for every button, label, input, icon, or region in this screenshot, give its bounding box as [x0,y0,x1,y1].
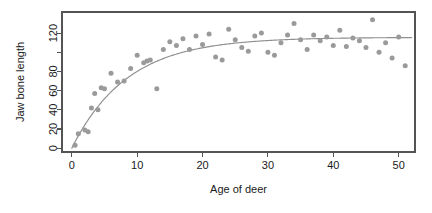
data-point [278,40,283,45]
data-point [377,50,382,55]
data-point [122,79,127,84]
data-point [128,66,133,71]
data-point [390,56,395,61]
data-point [220,57,225,62]
data-point [305,47,310,52]
data-point [89,105,94,110]
data-point [167,39,172,44]
data-point [259,31,264,36]
data-point [135,53,140,58]
plot-frame [62,12,415,152]
data-point [115,80,120,85]
x-tick-label: 10 [131,159,143,171]
data-point [95,107,100,112]
x-tick-label: 40 [327,159,339,171]
data-point [285,33,290,38]
data-point [154,86,159,91]
data-point [396,34,401,39]
data-point [403,63,408,68]
y-tick-label: 40 [47,104,59,116]
y-axis: 020406080120 [47,24,62,151]
data-point [331,43,336,48]
data-point [76,131,81,136]
x-tick-label: 50 [393,159,405,171]
data-point [292,21,297,26]
x-axis-title: Age of deer [210,183,267,195]
data-point [265,50,270,55]
chart-container: 01020304050020406080120Age of deerJaw bo… [0,0,432,213]
data-point [324,34,329,39]
y-tick-label: 120 [47,24,59,42]
data-point [318,38,323,43]
data-point [73,143,78,148]
data-point [213,55,218,60]
data-point [239,45,244,50]
data-point [311,33,316,38]
data-point [350,35,355,40]
data-point [337,28,342,33]
scatter-plot: 01020304050020406080120Age of deerJaw bo… [0,0,432,213]
y-tick-label: 20 [47,123,59,135]
data-points [73,17,408,148]
y-tick-label: 0 [47,145,59,151]
data-point [86,129,91,134]
data-point [357,38,362,43]
y-axis-title: Jaw bone length [14,42,26,122]
data-point [200,42,205,47]
y-tick-label: 80 [47,65,59,77]
x-tick-label: 0 [69,159,75,171]
data-point [272,53,277,58]
x-tick-label: 30 [262,159,274,171]
data-point [207,32,212,37]
x-tick-label: 20 [196,159,208,171]
y-tick-label: 60 [47,85,59,97]
data-point [180,36,185,41]
data-point [344,44,349,49]
data-point [252,33,257,38]
data-point [363,45,368,50]
data-point [246,49,251,54]
fitted-curve [72,38,412,149]
x-axis: 01020304050 [69,152,405,171]
data-point [161,47,166,52]
data-point [370,17,375,22]
data-point [298,37,303,42]
data-point [92,91,97,96]
data-point [102,86,107,91]
data-point [174,43,179,48]
data-point [187,47,192,52]
data-point [383,40,388,45]
data-point [148,57,153,62]
data-point [233,37,238,42]
data-point [194,33,199,38]
data-point [226,27,231,32]
data-point [109,71,114,76]
